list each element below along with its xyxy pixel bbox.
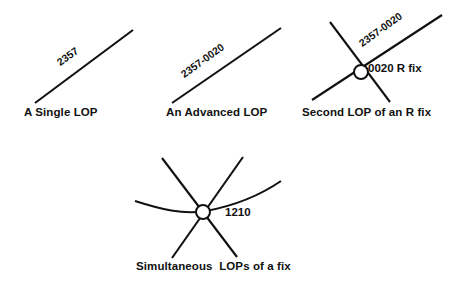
caption-simultaneous-lops: Simultaneous LOPs of a fix <box>136 260 291 272</box>
lop-line-2357 <box>35 30 133 103</box>
lop-figure-canvas <box>0 0 453 299</box>
fix-label-0020-r-fix: 0020 R fix <box>368 62 422 74</box>
fix-symbol-r-fix <box>354 65 368 79</box>
panel-simultaneous-lops-graphic <box>135 157 281 258</box>
lop-figure: 2357 2357-0020 2357-0020 0020 R fix 1210… <box>0 0 453 299</box>
caption-advanced-lop: An Advanced LOP <box>166 106 267 118</box>
caption-second-lop-r-fix: Second LOP of an R fix <box>302 106 431 118</box>
fix-symbol-1210 <box>196 205 210 219</box>
caption-single-lop: A Single LOP <box>24 106 98 118</box>
panel-single-lop-graphic <box>35 30 133 103</box>
fix-label-1210: 1210 <box>225 206 251 218</box>
